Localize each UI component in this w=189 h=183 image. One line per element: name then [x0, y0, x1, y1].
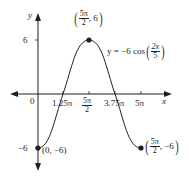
y-axis-label: y: [28, 11, 32, 20]
x-axis-left-arrow-icon: [10, 91, 18, 97]
x-tick-3-75pi-label: 3.75π: [104, 99, 124, 108]
x-tick-5pi-label: 5π: [135, 99, 144, 108]
point-max-label: ( 5π2 , 6 ): [73, 10, 103, 27]
y-axis-down-arrow-icon: [35, 163, 41, 171]
point-max-dot: [86, 37, 91, 42]
x-axis-label: x: [162, 97, 166, 106]
x-tick-5pi-over-2-label: 5π 2: [82, 97, 92, 114]
y-tick-neg6-label: −6: [18, 144, 28, 153]
point-end-label: ( 5π2 , −6 ): [144, 138, 179, 155]
point-start-dot: [35, 145, 40, 150]
y-tick-6-label: 6: [23, 36, 28, 45]
point-end-dot: [138, 145, 143, 150]
x-tick-1-25pi-label: 1.25π: [52, 99, 72, 108]
origin-label: 0: [30, 97, 35, 106]
point-start-label: (0, −6): [42, 146, 67, 155]
equation-label: y = −6 cos ( 2x5 ): [107, 43, 166, 60]
y-axis-up-arrow-icon: [35, 13, 41, 21]
graph-canvas: [0, 0, 189, 183]
